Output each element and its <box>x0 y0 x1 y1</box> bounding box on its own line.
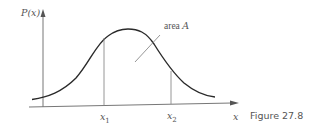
y-axis <box>41 9 46 107</box>
probability-density-diagram: P(x) area A x1 x2 x Figure 27.8 <box>0 0 321 128</box>
x2-label-sub: 2 <box>172 116 176 124</box>
x-axis <box>29 101 239 108</box>
area-label: area A <box>164 20 189 31</box>
bell-curve <box>32 29 215 100</box>
figure-caption: Figure 27.8 <box>250 110 303 121</box>
y-axis-label: P(x) <box>20 7 40 18</box>
x1-label: x1 <box>100 111 110 125</box>
area-label-text: area <box>164 21 182 31</box>
x-axis-label: x <box>233 111 239 122</box>
y-axis-arrowhead-icon <box>41 9 46 17</box>
x-axis-arrowhead-icon <box>230 101 239 106</box>
x1-label-sub: 1 <box>105 117 109 125</box>
x2-label: x2 <box>167 110 177 124</box>
area-label-symbol: A <box>181 20 189 31</box>
